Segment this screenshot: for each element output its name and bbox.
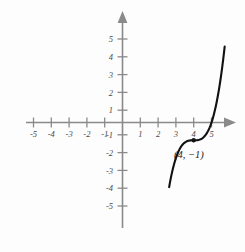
y-tick-label: -2 xyxy=(106,148,114,158)
y-tick-label: -3 xyxy=(106,166,113,176)
y-tick-label: -4 xyxy=(106,183,114,193)
y-axis-arrow-icon xyxy=(118,11,128,23)
coordinate-plane-plot: -5 -4 -3 -2 -1 1 2 3 4 5 5 4 3 2 1 -1 -2… xyxy=(0,0,245,252)
y-tick-label: -1 xyxy=(106,130,113,140)
x-tick-label: -5 xyxy=(30,129,37,139)
x-tick-label: 2 xyxy=(156,129,161,139)
axis-group xyxy=(26,11,236,228)
x-tick-label: -4 xyxy=(48,129,56,139)
y-tick-label: -5 xyxy=(106,201,113,211)
x-tick-label: -3 xyxy=(66,129,73,139)
x-tick-label: 1 xyxy=(138,129,142,139)
y-tick-label: 1 xyxy=(109,105,113,115)
x-tick-label: 4 xyxy=(192,129,197,139)
y-tick-label: 3 xyxy=(108,70,113,80)
cubic-curve-group xyxy=(169,47,225,188)
point-annotation-label: (4, −1) xyxy=(174,149,204,161)
x-tick-label: 3 xyxy=(173,129,178,139)
cubic-curve-path xyxy=(169,47,225,188)
x-axis-arrow-icon xyxy=(224,118,236,128)
y-tick-label: 4 xyxy=(109,52,114,62)
annotated-point-marker xyxy=(192,138,196,142)
y-tick-label: 2 xyxy=(109,88,114,98)
x-tick-label: -2 xyxy=(83,129,91,139)
y-tick-label: 5 xyxy=(109,34,113,44)
x-tick-label: 5 xyxy=(209,129,213,139)
cubic-function-graph-figure: -5 -4 -3 -2 -1 1 2 3 4 5 5 4 3 2 1 -1 -2… xyxy=(0,0,245,252)
